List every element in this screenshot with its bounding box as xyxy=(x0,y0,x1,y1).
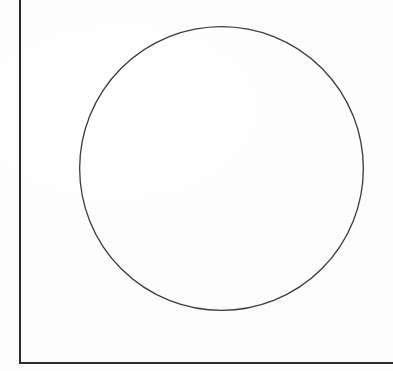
ghost-text-line: ····· ···· ······ ··· ······ xyxy=(200,350,277,359)
circle-outline xyxy=(80,27,364,311)
ghost-text-line: ······ ······· ··· ········· ····· xyxy=(114,336,208,345)
ghost-text-line: ···· ······· ·· xyxy=(40,214,81,223)
frame-bottom-border xyxy=(19,362,393,364)
frame-left-border xyxy=(19,0,21,364)
circle-figure xyxy=(79,26,364,311)
scanned-page: ····· ······· ··· ············ ········ … xyxy=(0,0,393,371)
